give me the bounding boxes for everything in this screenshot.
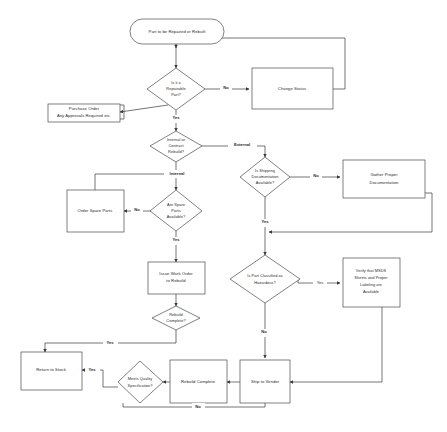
node-repairable-label-3: Part? xyxy=(171,92,181,97)
node-msds-label-2: Sheets and Proper xyxy=(354,275,388,280)
node-ship-to-vendor-label: Ship to Vendor xyxy=(251,379,280,384)
edge-msds-to-ship xyxy=(290,307,382,382)
node-purchase-order-label-1: Purchase Order xyxy=(69,106,100,111)
node-order-spare-parts-label: Order Spare Parts xyxy=(78,208,113,213)
edge-label-hazardous-yes: Yes xyxy=(317,280,324,285)
node-shipping-docs[interactable]: Is Shipping Documentation Available? xyxy=(240,157,290,197)
node-start-label: Part to be Repaired or Rebuilt xyxy=(149,29,207,34)
node-spare-label-2: Parts xyxy=(171,208,180,213)
node-spare-label-1: Are Spare xyxy=(167,202,185,207)
node-rebuild-q-label-1: Rebuild xyxy=(169,312,183,317)
node-gather-docs-label-1: Gather Proper xyxy=(370,172,398,177)
edge-label-repairable-no: No xyxy=(223,85,229,90)
node-quality-label-2: Specification? xyxy=(128,383,154,388)
node-msds-label-4: Available xyxy=(363,289,379,294)
node-issue-work-order[interactable]: Issue Work Order to Rebuild xyxy=(148,262,205,294)
node-issue-work-order-label-1: Issue Work Order xyxy=(159,271,193,276)
node-return-to-stock[interactable]: Return to Stock xyxy=(21,352,82,390)
edge-gather-docs-loopback xyxy=(269,193,432,232)
flowchart-canvas: Part to be Repaired or Rebuilt Is it a R… xyxy=(0,0,447,432)
node-msds-label-3: Labeling are xyxy=(360,282,382,287)
node-purchase-order[interactable]: Purchase Order Any Approvals Required et… xyxy=(48,104,120,122)
edge-label-branch-internal: Internal xyxy=(170,171,185,176)
node-internal-or-contract[interactable]: Internal or Contract Rebuild? xyxy=(150,131,202,162)
node-rebuild-complete-box-label: Rebuild Complete xyxy=(181,379,216,384)
node-internal-label-3: Rebuild? xyxy=(168,149,185,154)
node-rebuild-q-label-2: Complete? xyxy=(166,318,186,323)
flowchart-svg: Part to be Repaired or Rebuilt Is it a R… xyxy=(0,0,447,432)
node-repairable-label-1: Is it a xyxy=(171,80,181,85)
edge-repairable-to-purchase-order xyxy=(120,105,168,112)
node-shipping-label-2: Documentation xyxy=(252,174,279,179)
edge-label-branch-external: External xyxy=(234,142,250,147)
node-gather-docs[interactable]: Gather Proper Documentation xyxy=(343,160,425,198)
node-change-status[interactable]: Change Status xyxy=(252,68,333,109)
node-start[interactable]: Part to be Repaired or Rebuilt xyxy=(130,19,224,44)
edge-internal-to-order-spare-parts xyxy=(95,174,176,190)
node-meets-quality[interactable]: Meets Quality Specification? xyxy=(118,361,163,403)
node-msds-label-1: Verify that MSDS xyxy=(356,268,387,273)
node-order-spare-parts[interactable]: Order Spare Parts xyxy=(67,190,124,232)
node-shipping-label-3: Available? xyxy=(256,180,275,185)
node-shipping-label-1: Is Shipping xyxy=(255,168,275,173)
edge-label-spare-no: No xyxy=(134,207,140,212)
edge-label-repairable-yes: Yes xyxy=(172,115,180,120)
node-repairable-label-2: Repairable xyxy=(166,86,185,91)
node-verify-msds[interactable]: Verify that MSDS Sheets and Proper Label… xyxy=(343,258,400,307)
edge-label-spare-yes: Yes xyxy=(172,237,180,242)
node-rebuild-complete-question[interactable]: Rebuild Complete? xyxy=(152,306,200,330)
edge-label-shipping-yes: Yes xyxy=(261,219,269,224)
edge-label-hazardous-no: No xyxy=(261,329,267,334)
edge-label-shipping-no: No xyxy=(313,173,319,178)
node-hazardous[interactable]: Is Part Classified as Hazardous? xyxy=(230,255,300,303)
node-quality-label-1: Meets Quality xyxy=(128,376,152,381)
edge-label-quality-yes: Yes xyxy=(88,367,96,372)
node-internal-label-2: Contract xyxy=(168,143,184,148)
edge-label-rebuild-yes: Yes xyxy=(106,340,114,345)
node-gather-docs-label-2: Documentation xyxy=(370,180,399,185)
node-internal-label-1: Internal or xyxy=(167,137,186,142)
node-hazardous-label-1: Is Part Classified as xyxy=(247,273,282,278)
node-change-status-label: Change Status xyxy=(278,86,306,91)
node-purchase-order-label-2: Any Approvals Required etc. xyxy=(57,113,111,118)
node-spare-label-3: Available? xyxy=(167,214,186,219)
node-repairable[interactable]: Is it a Repairable Part? xyxy=(147,68,205,110)
node-return-to-stock-label: Return to Stock xyxy=(36,367,66,372)
node-rebuild-complete-box[interactable]: Rebuild Complete xyxy=(170,360,227,403)
edge-label-quality-no: No xyxy=(195,404,201,409)
node-ship-to-vendor[interactable]: Ship to Vendor xyxy=(240,360,290,403)
node-hazardous-label-2: Hazardous? xyxy=(254,280,276,285)
node-spare-parts[interactable]: Are Spare Parts Available? xyxy=(150,190,202,231)
node-issue-work-order-label-2: to Rebuild xyxy=(166,278,186,283)
